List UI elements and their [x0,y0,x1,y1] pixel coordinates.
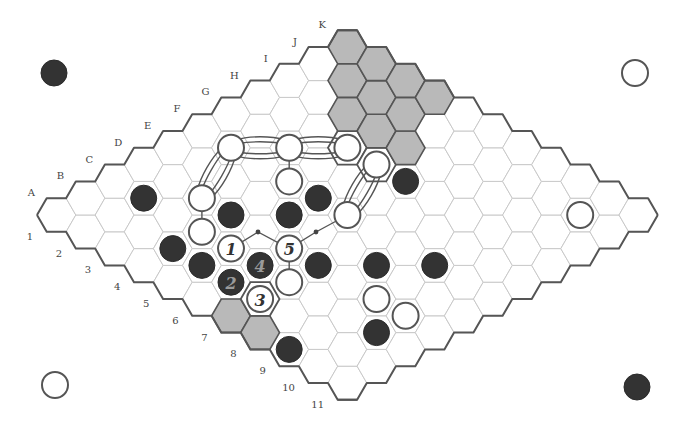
black-stone-c2[interactable] [131,185,157,211]
move-number-label: 4 [255,257,266,276]
black-stone-b4[interactable] [160,236,186,262]
white-stone-c7[interactable] [276,269,302,295]
link-dot [256,230,261,235]
corner-bottom-right-black-stone [624,374,650,400]
white-stone-h5[interactable] [364,152,390,178]
white-stone-j10[interactable] [567,202,593,228]
black-stone-b5[interactable] [189,252,215,278]
row-label-11: 11 [311,399,324,410]
column-label-e: E [144,120,151,131]
corner-top-right-white-stone [622,60,648,86]
black-stone-e5[interactable] [276,202,302,228]
black-stone-f9[interactable] [422,252,448,278]
corner-bottom-left-white-stone [42,372,68,398]
row-label-5: 5 [143,298,149,309]
white-stone-c4[interactable] [189,219,215,245]
move-number-label: 5 [284,240,295,259]
column-label-j: J [292,36,297,47]
move-number-label: 1 [225,240,236,259]
column-label-f: F [174,103,181,114]
black-stone-d7[interactable] [305,252,331,278]
white-stone-f6[interactable] [334,202,360,228]
corner-top-left-black-stone [41,60,67,86]
black-stone-c10[interactable] [364,320,390,346]
row-label-7: 7 [201,332,207,343]
black-stone-h6[interactable] [393,168,419,194]
move-number-label: 3 [255,291,266,310]
column-label-k: K [319,19,327,30]
row-label-1: 1 [27,231,33,242]
column-label-b: B [57,170,64,181]
column-label-i: I [264,53,268,64]
row-label-6: 6 [172,315,178,326]
row-label-9: 9 [259,365,265,376]
white-stone-d10[interactable] [393,303,419,329]
white-stone-d9[interactable] [364,286,390,312]
column-label-c: C [86,154,94,165]
column-label-d: D [114,137,122,148]
row-label-4: 4 [114,281,120,292]
white-stone-f2[interactable] [218,135,244,161]
white-stone-d3[interactable] [189,185,215,211]
white-stone-h4[interactable] [334,135,360,161]
link-dot [314,230,319,235]
column-label-g: G [202,86,210,97]
black-stone-e8[interactable] [364,252,390,278]
column-label-a: A [27,187,36,198]
row-label-3: 3 [85,264,91,275]
white-stone-f4[interactable] [276,168,302,194]
row-label-8: 8 [230,348,236,359]
black-stone-a9[interactable] [276,336,302,362]
hex-board: ABCDEFGHIJK1234567891011 15342 [0,0,688,434]
move-number-label: 2 [224,274,236,293]
row-label-2: 2 [56,248,62,259]
black-stone-d4[interactable] [218,202,244,228]
black-stone-f5[interactable] [305,185,331,211]
white-stone-g3[interactable] [276,135,302,161]
column-label-h: H [230,70,239,81]
row-label-10: 10 [282,382,295,393]
